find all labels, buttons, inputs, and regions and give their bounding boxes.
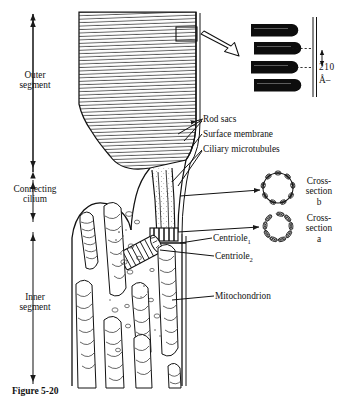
- label-rod-sacs: Rod sacs: [203, 114, 236, 124]
- label-centriole-2: Centriole2: [215, 251, 253, 265]
- label-connecting-cilium: Connecting cilium: [0, 184, 72, 205]
- mitochondrion: [168, 363, 181, 388]
- cross-section-b-diagram: [261, 171, 296, 205]
- disc-lamellae: [70, 8, 210, 178]
- label-outer-segment: Outer segment: [0, 70, 70, 91]
- label-centriole-1: Centriole1: [213, 233, 251, 247]
- cross-section-a-diagram: [263, 212, 294, 243]
- mitochondrion: [104, 316, 124, 388]
- outer-segment-body: [70, 8, 210, 178]
- mitochondrion: [158, 244, 178, 356]
- label-surface-membrane: Surface membrane: [203, 129, 273, 139]
- figure-caption: Figure 5-20: [12, 386, 59, 396]
- label-mitochondrion: Mitochondrion: [215, 291, 271, 301]
- magnified-rod-sacs: [251, 24, 301, 91]
- mitochondrion: [80, 212, 98, 269]
- mitochondrion: [134, 334, 152, 388]
- mitochondrion: [104, 202, 126, 296]
- label-ciliary-microtubules: Ciliary microtubules: [203, 144, 280, 154]
- label-scale-value: 210: [319, 62, 335, 72]
- figure-canvas: Outer segment Connecting cilium Inner se…: [0, 0, 343, 396]
- label-cross-section-b: Cross- section b: [297, 176, 341, 207]
- label-scale-unit: Å–: [319, 75, 330, 85]
- label-inner-segment: Inner segment: [0, 292, 70, 313]
- mitochondrion: [76, 280, 96, 388]
- label-cross-section-a: Cross- section a: [297, 213, 341, 244]
